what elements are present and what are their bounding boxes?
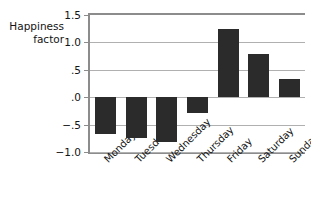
- bar: [95, 97, 116, 134]
- y-axis-tick-mark: [84, 125, 88, 126]
- y-axis-title: Happiness factor: [2, 20, 64, 45]
- bar-chart-figure: Happiness factor 1.51.0.5.0−.5−1.0Monday…: [0, 0, 311, 199]
- y-axis-tick-mark: [84, 97, 88, 98]
- x-axis-tick-label: Friday: [225, 136, 254, 165]
- y-axis-tick-label: −.5: [62, 119, 81, 130]
- plot-area: 1.51.0.5.0−.5−1.0MondayTuesdayWednesdayT…: [90, 15, 305, 152]
- bar: [218, 29, 239, 98]
- bar: [279, 79, 300, 97]
- gridline: [90, 42, 305, 43]
- y-axis-tick-mark: [84, 152, 88, 153]
- bar: [156, 97, 177, 142]
- y-axis-tick-label: .5: [71, 64, 81, 75]
- y-axis-tick-label: −1.0: [56, 147, 82, 158]
- y-axis-tick-mark: [84, 15, 88, 16]
- y-axis-tick-label: .0: [71, 92, 81, 103]
- y-axis-tick-mark: [84, 42, 88, 43]
- gridline: [90, 70, 305, 71]
- bar: [248, 54, 269, 97]
- bar: [187, 97, 208, 112]
- bar: [126, 97, 147, 138]
- y-axis-tick-label: 1.0: [64, 37, 81, 48]
- plot-frame: 1.51.0.5.0−.5−1.0MondayTuesdayWednesdayT…: [88, 13, 305, 154]
- y-axis-tick-label: 1.5: [64, 10, 81, 21]
- y-axis-tick-mark: [84, 70, 88, 71]
